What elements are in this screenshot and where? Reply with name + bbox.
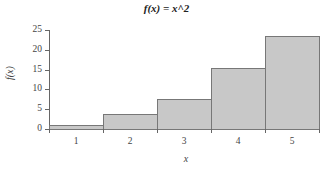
x-tick-label: 2 xyxy=(103,136,157,146)
y-tick xyxy=(45,109,50,110)
y-tick xyxy=(45,50,50,51)
x-tick-label: 5 xyxy=(265,136,319,146)
x-tick-label: 4 xyxy=(211,136,265,146)
chart-title: f(x) = x^2 xyxy=(0,2,333,14)
y-tick-label: 15 xyxy=(22,64,42,74)
y-tick-label: 10 xyxy=(22,83,42,93)
y-tick xyxy=(45,89,50,90)
x-tick xyxy=(211,129,212,133)
bar-1 xyxy=(49,125,104,130)
x-tick xyxy=(265,129,266,133)
x-axis-label: x xyxy=(0,153,333,164)
bar-4 xyxy=(211,68,266,130)
y-axis xyxy=(49,30,50,130)
x-tick xyxy=(157,129,158,133)
x-tick-label: 1 xyxy=(49,136,103,146)
x-tick xyxy=(49,129,50,133)
y-axis-label: f(x) xyxy=(4,66,15,80)
bar-3 xyxy=(157,99,212,130)
y-tick-label: 25 xyxy=(22,24,42,34)
x-tick-label: 3 xyxy=(157,136,211,146)
y-tick-label: 0 xyxy=(22,123,42,133)
y-tick-label: 5 xyxy=(22,103,42,113)
bar-2 xyxy=(103,114,158,130)
bar-5 xyxy=(265,36,320,130)
x-tick xyxy=(103,129,104,133)
y-tick-label: 20 xyxy=(22,44,42,54)
y-tick xyxy=(45,30,50,31)
y-tick xyxy=(45,70,50,71)
x-tick xyxy=(319,129,320,133)
